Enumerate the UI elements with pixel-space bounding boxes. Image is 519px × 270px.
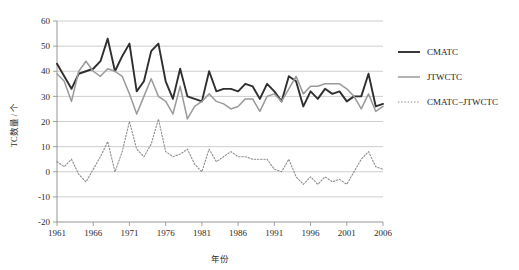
- x-axis-tick-marks: [57, 222, 383, 226]
- y-axis-tick-labels: 6050403020100-10-20: [38, 16, 51, 227]
- y-tick-label: -20: [38, 217, 50, 227]
- x-tick-label: 2001: [338, 228, 356, 238]
- y-tick-label: 40: [41, 66, 51, 76]
- y-axis-title: TC数量 / 个: [9, 103, 19, 147]
- x-axis-tick-labels: 1961196619711976198119861991199620012006: [48, 228, 393, 238]
- x-tick-label: 1991: [265, 228, 283, 238]
- legend-label-1: CMATC: [427, 47, 458, 57]
- chart-container: 6050403020100-10-20 19611966197119761981…: [0, 0, 519, 270]
- x-tick-label: 1986: [229, 228, 248, 238]
- y-tick-label: 0: [46, 167, 51, 177]
- legend: CMATCJTWCTCCMATC−JTWCTC: [398, 47, 498, 107]
- x-axis-title: 年份: [211, 254, 229, 264]
- legend-label-3: CMATC−JTWCTC: [427, 97, 498, 107]
- x-tick-label: 1971: [120, 228, 138, 238]
- x-tick-label: 2006: [374, 228, 393, 238]
- x-tick-label: 1976: [157, 228, 176, 238]
- x-tick-label: 1961: [48, 228, 66, 238]
- tc-count-line-chart: 6050403020100-10-20 19611966197119761981…: [0, 0, 519, 270]
- y-tick-label: 60: [41, 16, 51, 26]
- x-tick-label: 1996: [302, 228, 321, 238]
- x-tick-label: 1981: [193, 228, 211, 238]
- x-tick-label: 1966: [84, 228, 103, 238]
- legend-label-2: JTWCTC: [427, 72, 462, 82]
- y-tick-label: -10: [38, 192, 50, 202]
- y-tick-label: 50: [41, 41, 51, 51]
- y-tick-label: 20: [41, 117, 51, 127]
- y-tick-label: 10: [41, 142, 51, 152]
- y-tick-label: 30: [41, 92, 51, 102]
